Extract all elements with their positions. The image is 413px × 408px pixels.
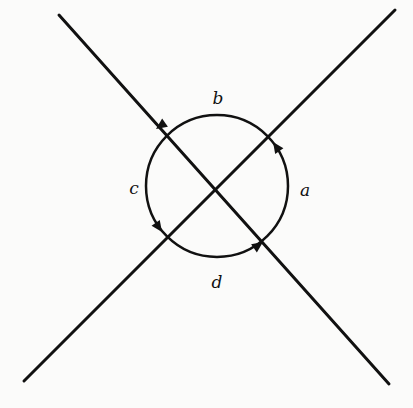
line-descending xyxy=(59,15,389,384)
arc-label-a: a xyxy=(300,182,310,199)
line-ascending xyxy=(24,10,395,381)
arc-label-c: c xyxy=(129,180,139,197)
arc-label-b: b xyxy=(213,90,224,107)
arc-label-d: d xyxy=(212,274,223,291)
crossing-lines-diagram xyxy=(0,0,413,408)
